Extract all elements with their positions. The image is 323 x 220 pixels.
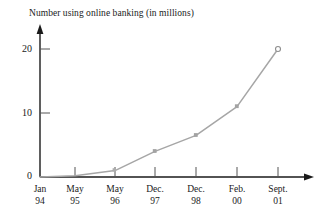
x-tick-year: 95 [53,195,97,207]
x-tick-year: 00 [215,195,259,207]
x-tick-month: May [53,183,97,195]
x-tick-month: Sept. [256,183,300,195]
data-point-marker [153,149,157,153]
x-axis-tick-label-may-95: May 95 [53,183,97,207]
x-axis-tick-label-feb-00: Feb. 00 [215,183,259,207]
x-axis-tick-label-may-96: May 96 [93,183,137,207]
x-tick-year: 01 [256,195,300,207]
x-tick-year: 96 [93,195,137,207]
x-tick-year: 97 [133,195,177,207]
data-point-marker [113,168,116,171]
data-point-marker [276,47,281,52]
y-axis-arrowhead [37,24,44,34]
y-axis-tick-label-0: 0 [12,170,32,181]
data-point-marker [235,104,239,108]
data-point-marker [194,133,198,137]
x-tick-month: Dec. [174,183,218,195]
x-tick-month: Feb. [215,183,259,195]
x-tick-year: 98 [174,195,218,207]
x-tick-month: Dec. [133,183,177,195]
y-axis-tick-label-10: 10 [10,107,32,118]
chart-container: Number using online banking (in millions… [0,0,323,220]
y-axis-tick-label-20: 20 [10,43,32,54]
x-axis-tick-label-sept-01: Sept. 01 [256,183,300,207]
x-axis-tick-label-dec-97: Dec. 97 [133,183,177,207]
data-line [40,49,278,177]
x-axis-tick-label-dec-98: Dec. 98 [174,183,218,207]
x-axis-arrowhead [304,174,314,181]
x-tick-month: May [93,183,137,195]
